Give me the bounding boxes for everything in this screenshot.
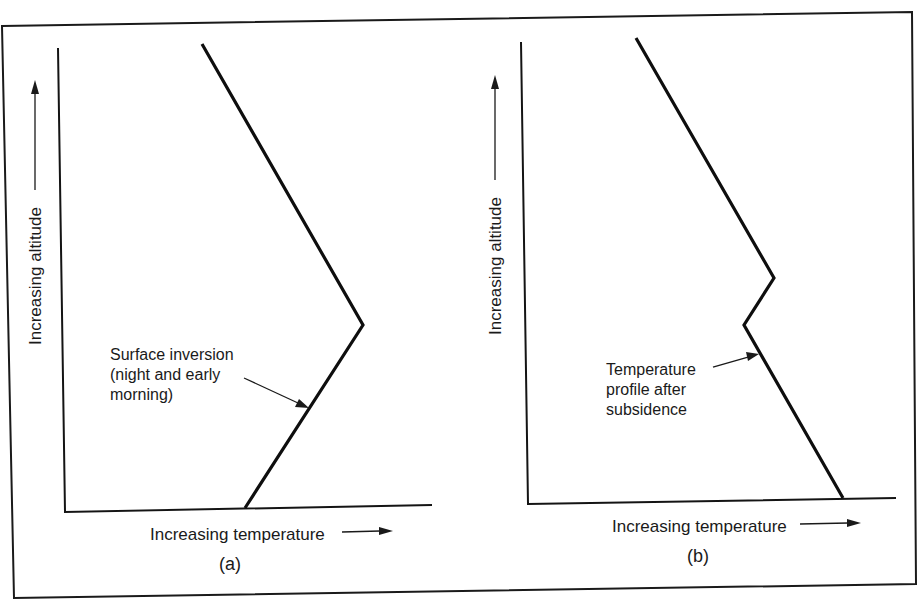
panel-b-x-axis-label: Increasing temperature xyxy=(612,517,787,536)
panel-a-y-axis-label-group: Increasing altitude xyxy=(26,80,45,345)
panel-a-x-axis-label-group: Increasing temperature xyxy=(150,525,393,544)
pointer-arrow-icon xyxy=(746,352,759,361)
right-arrow-icon xyxy=(847,519,861,527)
panel-b-x-axis-label-group: Increasing temperature xyxy=(612,517,861,536)
figure-canvas: Increasing altitude Increasing temperatu… xyxy=(0,0,921,610)
panel-b-annotation: Temperature profile after subsidence xyxy=(606,352,759,418)
panel-b-x-arrow-shaft xyxy=(800,523,848,524)
panel-a-x-axis-label: Increasing temperature xyxy=(150,525,325,544)
panel-b-y-axis-label-group: Increasing altitude xyxy=(486,75,505,335)
panel-a: Increasing altitude Increasing temperatu… xyxy=(26,44,432,574)
annotation-line: (night and early xyxy=(110,366,220,383)
annotation-line: morning) xyxy=(110,386,173,403)
panel-a-annotation: Surface inversion (night and early morni… xyxy=(110,346,309,408)
right-arrow-icon xyxy=(379,527,393,535)
panel-a-caption: (a) xyxy=(219,554,241,574)
panel-a-temperature-profile xyxy=(202,44,363,508)
panel-b: Increasing altitude Increasing temperatu… xyxy=(486,38,896,566)
annotation-line: profile after xyxy=(606,381,687,398)
annotation-line: subsidence xyxy=(606,401,687,418)
panel-b-axes xyxy=(521,42,896,504)
up-arrow-icon xyxy=(491,75,499,89)
annotation-line: Temperature xyxy=(606,361,696,378)
up-arrow-icon xyxy=(31,80,39,94)
panel-b-temperature-profile xyxy=(636,38,843,498)
panel-b-caption: (b) xyxy=(687,546,709,566)
annotation-pointer xyxy=(713,357,748,367)
panel-a-x-arrow-shaft xyxy=(342,531,380,532)
annotation-line: Surface inversion xyxy=(110,346,234,363)
annotation-pointer xyxy=(244,378,298,403)
panel-a-y-axis-label: Increasing altitude xyxy=(26,207,45,345)
panel-b-y-axis-label: Increasing altitude xyxy=(486,197,505,335)
pointer-arrow-icon xyxy=(295,399,309,408)
